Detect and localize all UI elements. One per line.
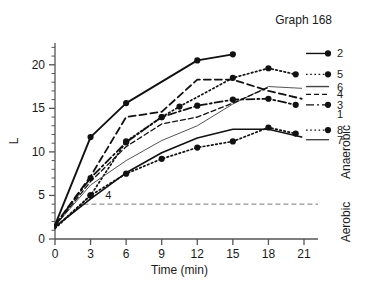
legend-marker-2 bbox=[325, 50, 331, 56]
series-marker-3 bbox=[159, 114, 165, 120]
side-label-anaerobic: Anaerobic bbox=[339, 125, 353, 179]
threshold-label: 4 bbox=[105, 189, 111, 201]
y-tick-label: 5 bbox=[38, 188, 45, 202]
legend-marker-3 bbox=[325, 102, 331, 108]
series-marker-7 bbox=[230, 138, 236, 144]
y-tick-label: 0 bbox=[38, 232, 45, 246]
series-marker-5 bbox=[293, 71, 299, 77]
series-marker-2 bbox=[194, 57, 200, 63]
legend-label-5: 5 bbox=[337, 68, 343, 80]
series-marker-3 bbox=[293, 102, 299, 108]
legend-marker-8 bbox=[325, 127, 331, 133]
chart-container: 05101520036912151821Time (min)L4Graph 16… bbox=[0, 0, 366, 287]
x-tick-label: 0 bbox=[52, 247, 59, 261]
series-marker-2 bbox=[87, 134, 93, 140]
series-marker-7 bbox=[293, 130, 299, 136]
x-tick-label: 21 bbox=[297, 247, 311, 261]
x-tick-label: 6 bbox=[123, 247, 130, 261]
series-line-4 bbox=[55, 80, 302, 225]
series-marker-7 bbox=[265, 124, 271, 130]
x-tick-label: 18 bbox=[262, 247, 276, 261]
x-tick-label: 12 bbox=[191, 247, 205, 261]
side-label-aerobic: Aerobic bbox=[339, 202, 353, 243]
x-axis-title: Time (min) bbox=[151, 263, 208, 277]
y-tick-label: 15 bbox=[32, 101, 46, 115]
y-axis-title: L bbox=[7, 137, 21, 144]
x-tick-label: 3 bbox=[87, 247, 94, 261]
series-marker-7 bbox=[194, 144, 200, 150]
x-tick-label: 9 bbox=[158, 247, 165, 261]
series-line-3 bbox=[55, 99, 296, 225]
line-chart: 05101520036912151821Time (min)L4Graph 16… bbox=[0, 0, 366, 287]
legend-marker-5 bbox=[325, 71, 331, 77]
y-tick-label: 10 bbox=[32, 145, 46, 159]
series-marker-7 bbox=[87, 192, 93, 198]
series-marker-5 bbox=[265, 65, 271, 71]
y-tick-label: 20 bbox=[32, 58, 46, 72]
series-marker-2 bbox=[230, 51, 236, 57]
series-marker-2 bbox=[123, 100, 129, 106]
series-marker-3 bbox=[194, 103, 200, 109]
series-marker-3 bbox=[123, 139, 129, 145]
series-marker-7 bbox=[123, 171, 129, 177]
legend-label-1: 1 bbox=[337, 108, 343, 120]
series-marker-3 bbox=[265, 96, 271, 102]
series-marker-5 bbox=[176, 103, 182, 109]
graph-title: Graph 168 bbox=[275, 13, 332, 27]
series-marker-7 bbox=[159, 156, 165, 162]
legend-label-2: 2 bbox=[337, 47, 343, 59]
x-tick-label: 15 bbox=[226, 247, 240, 261]
